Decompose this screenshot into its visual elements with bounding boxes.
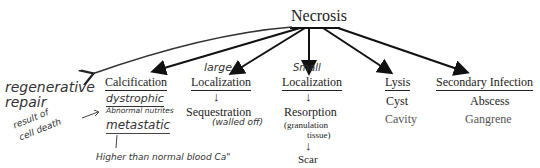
- node-cavity: Cavity: [385, 113, 417, 125]
- node-secondary-infection: Secondary Infection: [436, 76, 533, 91]
- handwritten-walled-off: (walled off): [212, 118, 263, 127]
- node-localization-small: Localization: [282, 76, 342, 91]
- node-cyst: Cyst: [386, 95, 408, 107]
- node-lysis: Lysis: [385, 76, 410, 91]
- handwritten-repair: repair: [5, 95, 46, 109]
- node-scar: Scar: [298, 154, 318, 165]
- handwritten-higher-than-normal-blood-ca: Higher than normal blood Ca": [96, 153, 230, 162]
- note-granulation: (granulation: [284, 121, 328, 130]
- necrosis-diagram: Necrosis regenerative repair Calcificati…: [0, 0, 540, 168]
- arrow-down-icon: ↓: [305, 90, 312, 103]
- node-abscess: Abscess: [470, 95, 509, 107]
- node-localization-large: Localization: [191, 76, 251, 91]
- handwritten-dystrophic: dystrophic: [106, 93, 164, 107]
- node-calcification: Calcification: [105, 76, 167, 91]
- root-node-necrosis: Necrosis: [291, 8, 347, 24]
- arrow-down-icon: ↓: [213, 90, 220, 103]
- handwritten-abnormal-nutrites: Abnormal nutrites: [106, 107, 174, 115]
- handwritten-small: Small: [293, 63, 321, 73]
- handwritten-large: large: [204, 62, 232, 73]
- handwritten-metastatic: metastatic: [106, 119, 170, 134]
- node-resorption: Resorption: [284, 106, 337, 118]
- handwritten-regenerative: regenerative: [5, 80, 95, 94]
- arrow-down-icon: ↓: [305, 139, 312, 152]
- node-gangrene: Gangrene: [465, 113, 512, 125]
